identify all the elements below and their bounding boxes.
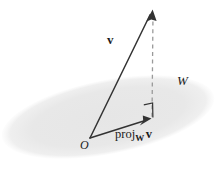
label-origin: O (80, 139, 89, 151)
label-subspace-w: W (177, 74, 188, 87)
projection-subscript: W (135, 133, 144, 143)
diagram-canvas (0, 0, 222, 182)
label-projection: projWv (115, 128, 152, 143)
projection-prefix: proj (115, 127, 135, 141)
projection-diagram: v W O projWv (0, 0, 222, 182)
label-vector-v: v (107, 33, 114, 46)
vector-v-arrowhead (146, 10, 156, 22)
projection-vector-symbol: v (146, 127, 152, 141)
